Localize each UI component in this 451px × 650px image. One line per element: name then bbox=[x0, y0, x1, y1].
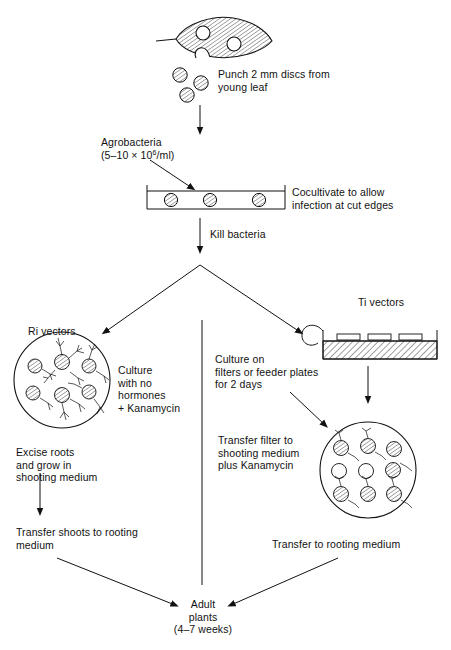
label-transfer-filter: Transfer filter to shooting medium plus … bbox=[218, 434, 299, 472]
arrow-left-to-adult-plants bbox=[57, 558, 175, 605]
label-agrobacteria-title: Agrobacteria bbox=[101, 136, 162, 149]
label-culture-on-filters: Culture on filters or feeder plates for … bbox=[215, 353, 318, 391]
label-culture-no-hormones: Culture with no hormones + Kanamycin bbox=[118, 364, 180, 414]
label-ti-vectors: Ti vectors bbox=[358, 296, 404, 309]
coculture-dish bbox=[147, 185, 285, 209]
label-adult-plants: Adultplants(4–7 weeks) bbox=[163, 598, 243, 636]
label-transfer-shoots: Transfer shoots to rooting medium bbox=[16, 526, 138, 551]
agro-conc-pre: (5–10 × 10 bbox=[101, 149, 153, 161]
label-cocultivate: Cocultivate to allow infection at cut ed… bbox=[292, 186, 393, 211]
arrow-transfer-to-ti-plate bbox=[290, 392, 325, 425]
arrow-right-to-adult-plants bbox=[231, 558, 338, 605]
punched-discs-group bbox=[173, 68, 208, 102]
arrow-agrobacteria-to-dish bbox=[150, 160, 192, 188]
arrow-branch-left-ri bbox=[105, 265, 200, 332]
adult-plants-duration: (4–7 weeks) bbox=[174, 623, 232, 635]
ti-shooting-plate bbox=[320, 422, 416, 518]
ti-vectors-dish bbox=[302, 325, 437, 359]
label-transfer-to-rooting: Transfer to rooting medium bbox=[272, 538, 400, 551]
label-ri-vectors: Ri vectors bbox=[28, 325, 76, 338]
agro-conc-post: /ml) bbox=[157, 149, 175, 161]
label-excise-roots: Excise roots and grow in shooting medium bbox=[16, 446, 97, 484]
label-punch-discs: Punch 2 mm discs from young leaf bbox=[218, 68, 330, 93]
adult-plants-line1: Adult bbox=[191, 598, 215, 610]
diagram-canvas: Punch 2 mm discs from young leaf Agrobac… bbox=[0, 0, 451, 650]
label-kill-bacteria: Kill bacteria bbox=[210, 228, 266, 241]
label-agrobacteria-concentration: (5–10 × 106/ml) bbox=[101, 149, 174, 162]
arrow-branch-right-ti bbox=[200, 265, 300, 332]
ri-vectors-plate bbox=[14, 332, 110, 428]
adult-plants-line2: plants bbox=[189, 611, 218, 623]
leaf-illustration bbox=[156, 17, 272, 58]
